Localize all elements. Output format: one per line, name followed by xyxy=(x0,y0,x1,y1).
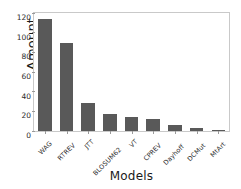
x-tick-label: JTT xyxy=(86,135,99,148)
x-tick-label-text: JTT xyxy=(83,138,96,151)
bar xyxy=(103,114,116,131)
x-tick-mark xyxy=(153,131,154,134)
bar-slot: CPREV xyxy=(142,13,164,131)
bar-slot: DCMut xyxy=(186,13,208,131)
bar xyxy=(146,119,159,131)
x-tick-label: RTREV xyxy=(62,135,83,156)
x-tick-mark xyxy=(197,131,198,134)
bar xyxy=(81,103,94,131)
x-tick-label-text: Dayhoff xyxy=(162,143,186,167)
bar xyxy=(38,19,51,131)
x-tick-label: WAG xyxy=(42,135,59,152)
y-tick-value: 80 xyxy=(21,52,31,61)
x-axis-title: Models xyxy=(33,169,230,183)
y-tick-value: 100 xyxy=(17,32,31,41)
bar-series: WAGRTREVJTTBLOSUM62VTCPREVDayhoffDCMutMt… xyxy=(34,13,229,131)
x-tick-label-text: RTREV xyxy=(56,141,77,162)
bar-slot: WAG xyxy=(34,13,56,131)
x-tick-mark xyxy=(110,131,111,134)
bar xyxy=(125,117,138,131)
x-tick-mark xyxy=(88,131,89,134)
y-tick-value: 40 xyxy=(21,91,31,100)
x-tick-label: MtArt xyxy=(214,135,233,154)
bar-slot: MtArt xyxy=(207,13,229,131)
bar-slot: JTT xyxy=(77,13,99,131)
x-tick-label: CPREV xyxy=(149,135,170,156)
y-tick-value: 120 xyxy=(17,13,31,22)
x-tick-mark xyxy=(175,131,176,134)
x-tick-mark xyxy=(67,131,68,134)
x-tick-mark xyxy=(218,131,219,134)
plot-area: 020406080100120 WAGRTREVJTTBLOSUM62VTCPR… xyxy=(33,12,230,132)
bar-slot: Dayhoff xyxy=(164,13,186,131)
y-tick-value: 20 xyxy=(21,111,31,120)
y-tick-value: 60 xyxy=(21,72,31,81)
x-tick-mark xyxy=(45,131,46,134)
x-tick-label-text: MtArt xyxy=(209,140,228,159)
x-tick-mark xyxy=(132,131,133,134)
bar-slot: VT xyxy=(121,13,143,131)
x-tick-label: BLOSUM62 xyxy=(102,135,133,166)
bar-slot: RTREV xyxy=(56,13,78,131)
x-tick-label-text: CPREV xyxy=(142,142,163,163)
bar-slot: BLOSUM62 xyxy=(99,13,121,131)
bar-chart-figure: Amount 020406080100120 WAGRTREVJTTBLOSUM… xyxy=(0,0,241,189)
bar xyxy=(60,43,73,132)
x-tick-label: VT xyxy=(130,135,142,147)
x-tick-label-text: WAG xyxy=(37,140,54,157)
y-tick-value: 0 xyxy=(26,131,31,140)
